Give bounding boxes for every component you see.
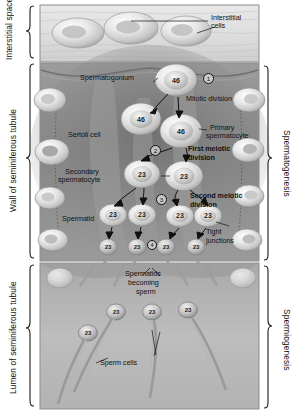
cell-count-early-sperm-2: 23 <box>130 242 144 252</box>
callout-spermatids-becoming-sperm-line2: becoming <box>128 279 159 287</box>
callout-mitotic-division: Mitotic division <box>186 95 232 103</box>
callout-second-meiotic-division-line1: Second meiotic <box>190 192 242 200</box>
cell-count-spermatid-2: 23 <box>134 209 150 220</box>
callout-second-meiotic-division-line2: division <box>190 201 217 209</box>
callout-sertoli-cell: Sertoli cell <box>68 131 101 139</box>
cell-count-secondary-spermatocyte-right: 23 <box>175 170 193 182</box>
diagram-artwork <box>0 0 299 412</box>
cell-count-spermatid-4: 23 <box>200 210 216 221</box>
callout-spermatogonium: Spermatogonium <box>80 74 134 82</box>
label-spermiogenesis: Spermiogenesis <box>278 272 292 408</box>
callout-spermatids-becoming-sperm-line3: sperm <box>136 288 156 296</box>
step-marker-4: 4 <box>147 240 157 250</box>
callout-secondary-spermatocyte-line2: spermatocyte <box>58 176 101 184</box>
cell-count-secondary-spermatocyte-left: 23 <box>133 168 151 180</box>
callout-tight-junctions-line1: Tight <box>206 228 221 236</box>
callout-sperm-cells: Sperm cells <box>100 359 137 367</box>
label-wall-of-seminiferous-tubule: Wall of seminiferous tubule <box>8 66 22 256</box>
cell-count-early-sperm-1: 23 <box>101 242 115 252</box>
label-interstitial-space: Interstitial space <box>4 6 20 60</box>
callout-primary-spermatocyte-line2: spermatocyte <box>206 132 249 140</box>
callout-first-meiotic-division-line2: division <box>188 154 215 162</box>
step-marker-1: 1 <box>203 73 214 84</box>
cell-count-early-sperm-4: 23 <box>189 242 203 252</box>
cell-count-sperm-4: 23 <box>181 305 195 315</box>
callout-spermatids-becoming-sperm-line1: Spermatids <box>125 270 161 278</box>
cell-count-spermatogonium-daughter: 46 <box>132 113 150 125</box>
label-lumen-of-seminiferous-tubule: Lumen of seminiferous tubule <box>8 268 22 408</box>
cell-count-sperm-1: 23 <box>109 307 123 317</box>
cell-count-spermatid-1: 23 <box>105 209 121 220</box>
callout-interstitial-cells-line2: cells <box>211 22 225 30</box>
callout-spermatid: Spermatid <box>62 215 94 223</box>
cell-count-sperm-3: 23 <box>145 307 159 317</box>
callout-tight-junctions-line2: junctions <box>206 237 234 245</box>
label-spermatogenesis: Spermatogenesis <box>278 70 292 256</box>
step-marker-2: 2 <box>150 145 161 156</box>
figure-canvas: Interstitial space Wall of seminiferous … <box>0 0 299 412</box>
cell-count-spermatid-3: 23 <box>172 210 188 221</box>
cell-count-spermatogonium-dividing: 46 <box>167 74 185 86</box>
cell-count-sperm-2: 23 <box>81 328 95 338</box>
step-marker-3: 3 <box>156 194 167 205</box>
cell-count-early-sperm-3: 23 <box>159 242 173 252</box>
callout-first-meiotic-division-line1: First meiotic <box>188 145 230 153</box>
cell-count-primary-spermatocyte: 46 <box>172 125 190 137</box>
